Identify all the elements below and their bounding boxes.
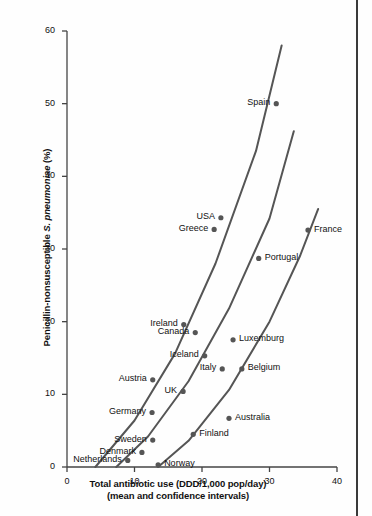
y-axis-title-prefix: Penicillin-nonsusceptible (41, 232, 52, 347)
point-label-usa: USA (196, 211, 215, 221)
data-point-norway (156, 462, 161, 467)
x-axis-title-line1: Total antibiotic use (DDD/1,000 pop/day) (0, 478, 356, 490)
data-point-portugal (256, 256, 261, 261)
point-label-spain: Spain (247, 97, 270, 107)
data-point-germany (149, 410, 154, 415)
point-label-france: France (314, 224, 342, 234)
chart-figure: 0102030405060010203040 SpainUSAGreeceFra… (0, 0, 372, 516)
point-label-australia: Australia (235, 412, 270, 422)
point-label-canada: Canada (158, 326, 190, 336)
data-point-usa (218, 215, 223, 220)
point-label-portugal: Portugal (265, 252, 299, 262)
x-axis-title-line2: (mean and confidence intervals) (0, 490, 356, 502)
point-label-belgium: Belgium (248, 362, 281, 372)
point-label-uk: UK (165, 385, 178, 395)
data-point-canada (193, 330, 198, 335)
point-label-sweden: Sweden (114, 434, 147, 444)
point-label-netherlands: Netherlands (73, 454, 122, 464)
point-label-greece: Greece (179, 223, 209, 233)
point-label-germany: Germany (109, 406, 146, 416)
y-tick-label: 60 (33, 25, 55, 35)
data-point-netherlands (125, 458, 130, 463)
y-axis-title: Penicillin-nonsusceptible S. pneumoniae … (41, 98, 52, 398)
data-point-france (305, 228, 310, 233)
y-axis-title-species: S. pneumoniae (41, 166, 52, 232)
scatter-plot-canvas (0, 0, 372, 516)
data-point-finland (191, 432, 196, 437)
data-point-austria (150, 377, 155, 382)
data-point-greece (212, 227, 217, 232)
point-label-luxemburg: Luxemburg (239, 333, 284, 343)
data-point-iceland (202, 353, 207, 358)
data-point-uk (181, 389, 186, 394)
data-point-sweden (150, 438, 155, 443)
data-point-luxemburg (230, 337, 235, 342)
data-point-italy (220, 366, 225, 371)
data-point-belgium (239, 366, 244, 371)
upper-confidence-interval-curve (95, 46, 281, 467)
data-point-australia (226, 416, 231, 421)
point-label-italy: Italy (200, 362, 217, 372)
data-point-spain (274, 101, 279, 106)
data-point-denmark (139, 450, 144, 455)
x-axis-title: Total antibiotic use (DDD/1,000 pop/day)… (0, 478, 356, 502)
point-label-finland: Finland (199, 428, 229, 438)
y-tick-label: 0 (33, 461, 55, 471)
point-label-iceland: Iceland (170, 349, 199, 359)
y-axis-title-suffix: (%) (41, 149, 52, 166)
point-label-norway: Norway (164, 458, 195, 468)
point-label-austria: Austria (119, 373, 147, 383)
